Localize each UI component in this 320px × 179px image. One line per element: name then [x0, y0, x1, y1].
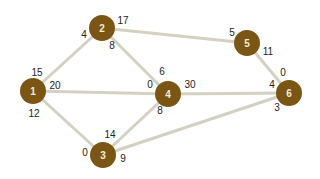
- node-label: 6: [286, 88, 292, 99]
- node-label: 5: [244, 38, 250, 49]
- edge-weight-label: 4: [81, 29, 87, 40]
- node-5: 5: [234, 30, 260, 56]
- edge-1-2: [33, 28, 102, 91]
- edge-4-3: [103, 94, 168, 155]
- edge-1-3: [33, 91, 103, 155]
- node-1: 1: [20, 78, 46, 104]
- node-2: 2: [89, 15, 115, 41]
- node-4: 4: [155, 81, 181, 107]
- edge-weight-label: 30: [184, 79, 196, 90]
- edge-weight-label: 11: [263, 46, 274, 57]
- node-6: 6: [276, 80, 302, 106]
- edge-weight-label: 9: [120, 153, 126, 164]
- edge-weight-label: 14: [104, 129, 116, 140]
- edge-weight-label: 3: [274, 102, 280, 113]
- edge-weight-label: 4: [269, 79, 275, 90]
- node-3: 3: [90, 142, 116, 168]
- edge-weight-label: 8: [109, 40, 115, 51]
- node-label: 4: [165, 89, 171, 100]
- edge-weight-label: 0: [280, 67, 286, 78]
- node-label: 2: [99, 23, 105, 34]
- edge-3-6: [103, 93, 289, 155]
- edge-weight-label: 15: [31, 67, 43, 78]
- edge-1-4: [33, 91, 168, 94]
- edge-weight-label: 6: [159, 66, 165, 77]
- edge-weight-label: 17: [117, 15, 129, 26]
- edge-2-4: [102, 28, 168, 94]
- node-label: 3: [100, 150, 106, 161]
- weighted-graph-diagram: 123456 1520124178603085110431409: [0, 0, 320, 179]
- edge-weight-label: 8: [157, 105, 163, 116]
- edge-weight-label: 0: [147, 79, 153, 90]
- edge-4-6: [168, 93, 289, 94]
- edge-2-5: [102, 28, 247, 43]
- node-label: 1: [30, 86, 36, 97]
- edge-weight-label: 12: [28, 108, 40, 119]
- edge-weight-label: 0: [82, 147, 88, 158]
- edge-weight-label: 5: [229, 27, 235, 38]
- edge-weight-label: 20: [49, 80, 61, 91]
